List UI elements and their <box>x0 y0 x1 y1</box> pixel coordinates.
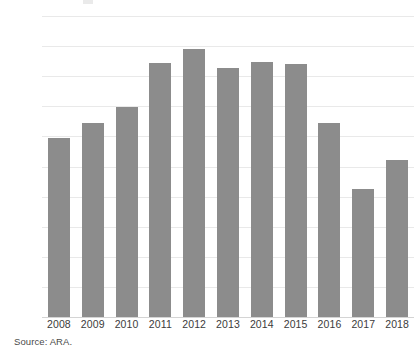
bar-series <box>42 16 414 317</box>
bar-chart-figure: 050100150200250300350400450500 200820092… <box>0 0 417 356</box>
bar[interactable] <box>251 62 273 317</box>
bar[interactable] <box>217 68 239 317</box>
clipped-title-fragment <box>83 0 93 4</box>
plot-area: 050100150200250300350400450500 <box>36 16 414 317</box>
x-axis-tick-label: 2014 <box>250 318 274 330</box>
bar-slot <box>313 16 347 317</box>
x-axis-tick-label: 2012 <box>182 318 206 330</box>
bar-slot <box>346 16 380 317</box>
bar[interactable] <box>149 63 171 317</box>
bar-slot <box>380 16 414 317</box>
source-note: Source: ARA. <box>14 336 72 347</box>
bar-slot <box>279 16 313 317</box>
x-axis-tick-label: 2008 <box>47 318 71 330</box>
x-axis-tick-label: 2009 <box>81 318 105 330</box>
x-axis-tick-label: 2011 <box>149 318 172 330</box>
x-axis-tick-label: 2015 <box>284 318 308 330</box>
x-axis-tick-label: 2017 <box>351 318 375 330</box>
bar-slot <box>177 16 211 317</box>
bar-slot <box>42 16 76 317</box>
bar[interactable] <box>318 123 340 317</box>
x-axis: 2008200920102011201220132014201520162017… <box>42 318 414 334</box>
bar[interactable] <box>285 64 307 317</box>
bar[interactable] <box>116 107 138 317</box>
bar[interactable] <box>82 123 104 317</box>
x-axis-tick-label: 2016 <box>318 318 342 330</box>
bar-slot <box>76 16 110 317</box>
bar-slot <box>211 16 245 317</box>
bar[interactable] <box>48 138 70 317</box>
bar[interactable] <box>183 49 205 317</box>
x-axis-tick-label: 2018 <box>385 318 409 330</box>
x-axis-tick-label: 2010 <box>115 318 139 330</box>
bar[interactable] <box>386 160 408 317</box>
bar-slot <box>245 16 279 317</box>
bar-slot <box>110 16 144 317</box>
x-axis-tick-label: 2013 <box>216 318 240 330</box>
bar[interactable] <box>352 189 374 317</box>
bar-slot <box>143 16 177 317</box>
